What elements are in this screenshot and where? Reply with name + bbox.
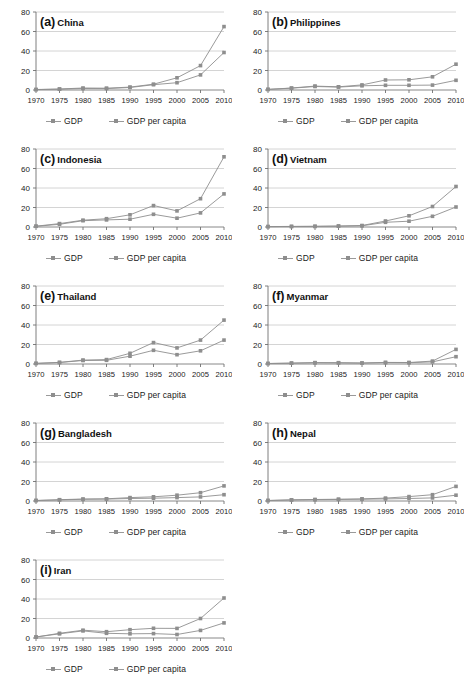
x-axis-tick-label: 2010	[216, 233, 232, 242]
legend-item-gdp-per-capita: GDP per capita	[341, 116, 418, 126]
data-point-marker	[152, 349, 156, 353]
x-axis-tick-label: 2005	[192, 644, 209, 653]
legend-marker-icon	[109, 258, 124, 259]
x-axis-tick-label: 2000	[401, 233, 418, 242]
legend-label: GDP	[296, 527, 315, 537]
legend-item-gdp-per-capita: GDP per capita	[109, 390, 186, 400]
data-point-marker	[407, 84, 411, 88]
plot-area: 0204060801970197519801985199019952000200…	[0, 552, 232, 660]
y-axis-tick-label: 60	[253, 302, 262, 311]
y-axis-tick-label: 60	[21, 439, 30, 448]
y-axis-tick-label: 80	[21, 419, 30, 428]
legend-item-gdp: GDP	[278, 390, 315, 400]
x-axis-tick-label: 1990	[354, 507, 371, 516]
chart-legend: GDPGDP per capita	[232, 249, 464, 267]
data-point-marker	[222, 484, 226, 488]
legend-marker-icon	[278, 395, 293, 396]
x-axis-tick-label: 1995	[145, 507, 162, 516]
legend-item-gdp-per-capita: GDP per capita	[341, 390, 418, 400]
x-axis-tick-label: 1985	[98, 644, 115, 653]
y-axis-tick-label: 40	[21, 47, 30, 56]
x-axis-tick-label: 1970	[260, 370, 277, 379]
x-axis-tick-label: 1980	[307, 370, 324, 379]
data-point-marker	[199, 338, 203, 342]
data-point-marker	[152, 627, 156, 631]
legend-item-gdp-per-capita: GDP per capita	[341, 527, 418, 537]
legend-marker-icon	[46, 258, 61, 259]
panel-title: (h)Nepal	[272, 423, 316, 441]
data-point-marker	[128, 632, 132, 636]
legend-label: GDP per capita	[359, 527, 418, 537]
y-axis-tick-label: 0	[26, 634, 31, 643]
legend-label: GDP per capita	[127, 390, 186, 400]
data-point-marker	[313, 361, 317, 365]
x-axis-tick-label: 1975	[51, 233, 68, 242]
data-point-marker	[152, 204, 156, 208]
legend-marker-icon	[341, 258, 356, 259]
data-point-marker	[431, 83, 435, 87]
data-point-marker	[222, 155, 226, 159]
legend-item-gdp: GDP	[46, 390, 83, 400]
legend-marker-icon	[278, 258, 293, 259]
line-chart: 0204060801970197519801985199019952000200…	[232, 278, 464, 386]
data-point-marker	[360, 84, 364, 88]
legend-item-gdp: GDP	[46, 527, 83, 537]
data-point-marker	[81, 359, 85, 363]
series-line-gdp-per-capita	[268, 207, 456, 227]
data-point-marker	[105, 359, 109, 363]
y-axis-tick-label: 20	[253, 67, 262, 76]
line-chart: 0204060801970197519801985199019952000200…	[0, 552, 232, 660]
data-point-marker	[222, 621, 226, 625]
data-point-marker	[222, 493, 226, 497]
panel-letter: (g)	[40, 426, 56, 440]
x-axis-tick-label: 1995	[377, 370, 394, 379]
x-axis-tick-label: 1980	[75, 507, 92, 516]
data-point-marker	[384, 221, 388, 225]
x-axis-tick-label: 2010	[216, 370, 232, 379]
data-point-marker	[58, 87, 62, 91]
x-axis-tick-label: 1980	[307, 233, 324, 242]
x-axis-tick-label: 1970	[28, 233, 45, 242]
panel-country-name: Philippines	[290, 17, 341, 28]
data-point-marker	[34, 362, 38, 366]
data-point-marker	[222, 338, 226, 342]
data-point-marker	[266, 88, 270, 92]
line-chart: 0204060801970197519801985199019952000200…	[0, 141, 232, 249]
chart-legend: GDPGDP per capita	[0, 112, 232, 130]
legend-label: GDP	[296, 116, 315, 126]
chart-legend: GDPGDP per capita	[0, 523, 232, 541]
x-axis-tick-label: 1990	[122, 644, 139, 653]
legend-item-gdp-per-capita: GDP per capita	[109, 527, 186, 537]
legend-label: GDP	[64, 116, 83, 126]
figure-gdp-panels: 0204060801970197519801985199019952000200…	[0, 0, 465, 677]
x-axis-tick-label: 2005	[192, 370, 209, 379]
panel-title: (f)Myanmar	[272, 286, 328, 304]
x-axis-tick-label: 1980	[75, 370, 92, 379]
chart-legend: GDPGDP per capita	[232, 523, 464, 541]
data-point-marker	[360, 497, 364, 501]
legend-label: GDP	[64, 390, 83, 400]
data-point-marker	[360, 224, 364, 228]
legend-label: GDP per capita	[359, 253, 418, 263]
y-axis-tick-label: 40	[21, 458, 30, 467]
x-axis-tick-label: 1980	[75, 644, 92, 653]
data-point-marker	[407, 361, 411, 365]
x-axis-tick-label: 1970	[260, 507, 277, 516]
y-axis-tick-label: 0	[258, 360, 263, 369]
data-point-marker	[454, 62, 458, 66]
data-point-marker	[337, 85, 341, 89]
panel-title: (d)Vietnam	[272, 149, 327, 167]
data-point-marker	[128, 354, 132, 358]
series-line-gdp-per-capita	[36, 194, 224, 226]
data-point-marker	[128, 217, 132, 221]
y-axis-tick-label: 60	[253, 439, 262, 448]
legend-marker-icon	[278, 121, 293, 122]
plot-area: 0204060801970197519801985199019952000200…	[232, 415, 464, 523]
data-point-marker	[222, 318, 226, 322]
data-point-marker	[431, 205, 435, 209]
data-point-marker	[290, 361, 294, 365]
x-axis-tick-label: 1985	[330, 370, 347, 379]
y-axis-tick-label: 40	[21, 184, 30, 193]
y-axis-tick-label: 20	[253, 341, 262, 350]
plot-area: 0204060801970197519801985199019952000200…	[232, 278, 464, 386]
